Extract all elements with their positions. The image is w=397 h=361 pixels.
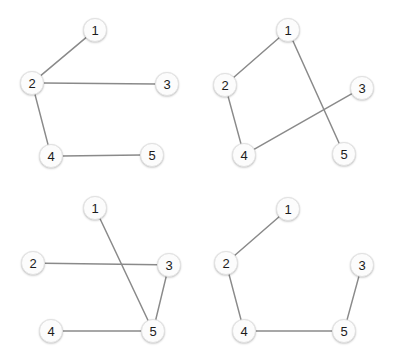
- graph-node-1[interactable]: 1: [276, 18, 300, 42]
- graph-node-label: 1: [284, 203, 291, 216]
- graph-edge-1-2: [233, 37, 279, 78]
- graph-node-label: 5: [340, 325, 347, 338]
- graph-node-label: 2: [28, 77, 35, 90]
- graph-node-label: 2: [222, 257, 229, 270]
- graph-node-5[interactable]: 5: [140, 143, 164, 167]
- graph-node-3[interactable]: 3: [155, 72, 179, 96]
- graph-edge-1-2: [234, 216, 279, 256]
- graph-node-label: 5: [148, 149, 155, 162]
- graph-node-4[interactable]: 4: [232, 143, 256, 167]
- graph-node-label: 3: [165, 259, 172, 272]
- graph-node-5[interactable]: 5: [141, 319, 165, 343]
- graph-node-label: 4: [47, 150, 54, 163]
- graph-node-1[interactable]: 1: [83, 196, 107, 220]
- graph-edge-2-4: [229, 274, 241, 321]
- graph-node-label: 3: [358, 259, 365, 272]
- graph-node-2[interactable]: 2: [213, 73, 237, 97]
- graph-edge-2-4: [228, 96, 241, 145]
- graph-node-label: 1: [91, 202, 98, 215]
- graph-edge-1-5: [100, 218, 149, 321]
- graph-node-4[interactable]: 4: [232, 319, 256, 343]
- graph-figure-board: 12345123451234512345: [0, 0, 397, 361]
- graph-node-label: 5: [340, 148, 347, 161]
- graph-node-label: 3: [358, 82, 365, 95]
- graph-edge-1-2: [40, 37, 86, 76]
- panel-top-left: 12345: [0, 0, 199, 181]
- graph-node-1[interactable]: 1: [276, 197, 300, 221]
- panel-bottom-left: 12345: [0, 180, 199, 361]
- graph-node-2[interactable]: 2: [214, 251, 238, 275]
- graph-edge-5-3: [347, 276, 359, 321]
- graph-node-label: 1: [284, 24, 291, 37]
- graph-node-4[interactable]: 4: [39, 144, 63, 168]
- panel-top-right: 12345: [198, 0, 397, 181]
- graph-node-3[interactable]: 3: [350, 253, 374, 277]
- panel-bottom-right: 12345: [198, 180, 397, 361]
- graph-node-1[interactable]: 1: [83, 18, 107, 42]
- graph-node-label: 1: [91, 24, 98, 37]
- graph-node-4[interactable]: 4: [39, 319, 63, 343]
- graph-node-5[interactable]: 5: [332, 319, 356, 343]
- graph-node-3[interactable]: 3: [350, 76, 374, 100]
- graph-node-2[interactable]: 2: [21, 251, 45, 275]
- graph-edge-1-5: [293, 40, 340, 144]
- graph-node-label: 5: [149, 325, 156, 338]
- graph-node-label: 4: [47, 325, 54, 338]
- graph-node-label: 3: [163, 78, 170, 91]
- graph-node-5[interactable]: 5: [332, 142, 356, 166]
- graph-node-2[interactable]: 2: [20, 71, 44, 95]
- graph-edge-2-3: [43, 83, 156, 84]
- graph-node-label: 2: [221, 79, 228, 92]
- graph-edge-3-5: [156, 276, 167, 321]
- graph-node-label: 2: [29, 257, 36, 270]
- graph-node-3[interactable]: 3: [157, 253, 181, 277]
- graph-node-label: 4: [240, 149, 247, 162]
- graph-edge-2-3: [44, 263, 158, 265]
- graph-edge-2-4: [35, 94, 48, 146]
- graph-node-label: 4: [240, 325, 247, 338]
- graph-edge-4-5: [62, 155, 141, 156]
